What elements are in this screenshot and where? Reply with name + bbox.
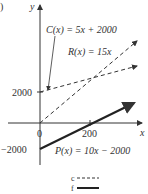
legend-key-f: f <box>71 184 74 193</box>
cost-leader <box>48 36 55 90</box>
cost-label: C(x) = 5x + 2000 <box>46 24 117 36</box>
cost-line <box>40 66 137 92</box>
legend-key-c: c <box>71 174 75 183</box>
y-axis-label: y <box>29 1 35 12</box>
tick-label-200: 200 <box>82 128 97 139</box>
revenue-label: R(x) = 15x <box>67 46 112 58</box>
tick-label-2000: 2000 <box>12 87 32 98</box>
tick-label-0: 0 <box>37 128 42 139</box>
profit-line <box>40 103 134 149</box>
profit-label: P(x) = 10x − 2000 <box>54 145 130 157</box>
panel-label: ) <box>0 1 3 13</box>
tick-label-neg2000: −2000 <box>1 144 27 155</box>
x-axis-label: x <box>139 127 145 138</box>
chart: ) y x 2000 −2000 0 200 C(x) = 5x + 2000 … <box>0 0 148 194</box>
